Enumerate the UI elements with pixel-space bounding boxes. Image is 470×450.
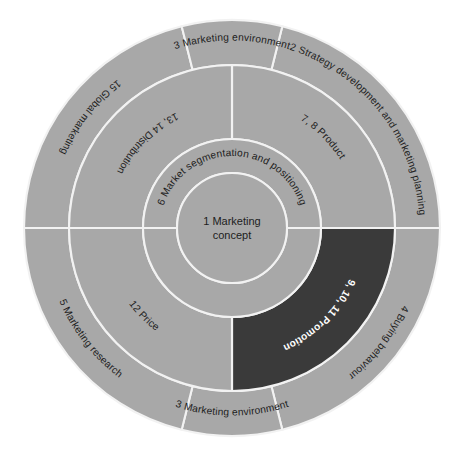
wheel-svg: 1 Marketingconcept 6 Market segmentation…	[0, 0, 470, 450]
marketing-wheel-diagram: 1 Marketingconcept 6 Market segmentation…	[0, 0, 470, 450]
core-group: 1 Marketingconcept	[177, 173, 287, 283]
core-circle[interactable]	[177, 173, 287, 283]
